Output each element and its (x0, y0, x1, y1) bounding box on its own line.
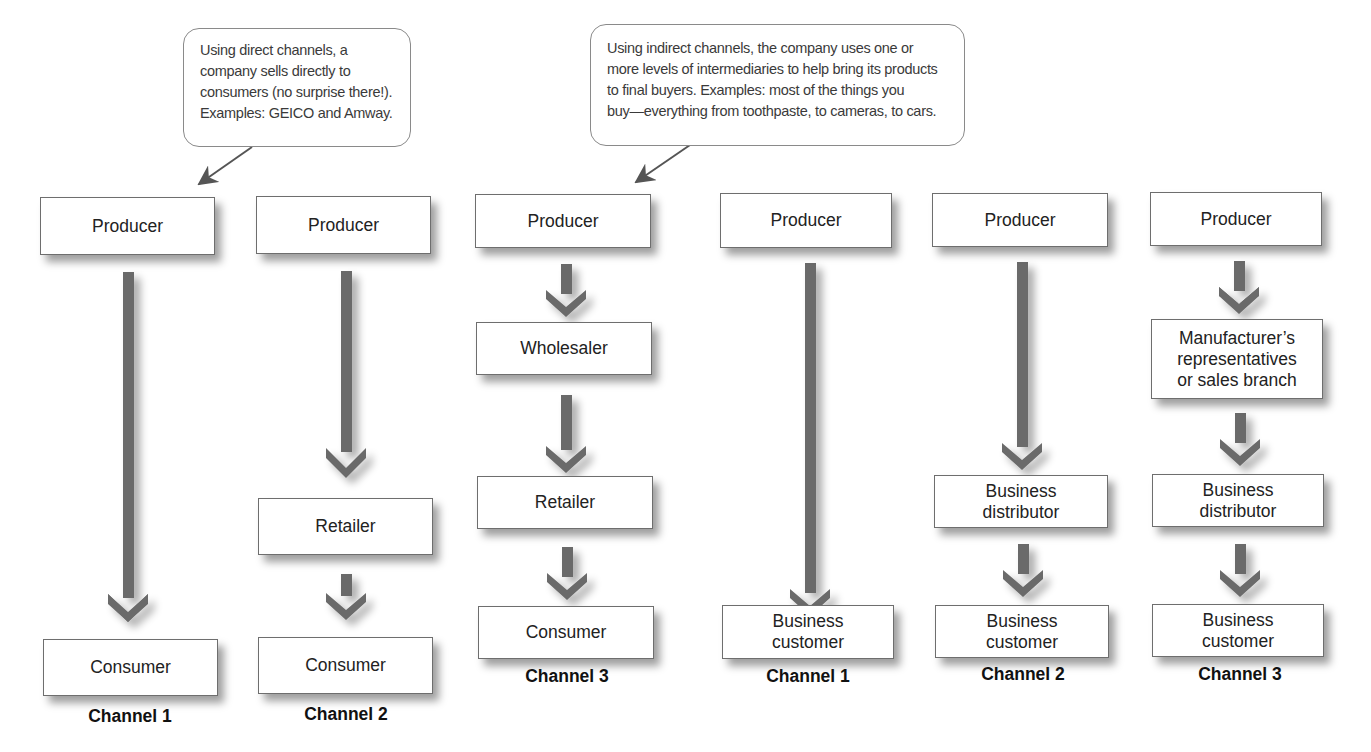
node-consumer: Consumer (478, 606, 654, 659)
node-label: Retailer (535, 492, 595, 513)
node-business-distributor: Business distributor (1152, 474, 1324, 527)
node-label-line: Manufacturer’s (1179, 328, 1295, 349)
node-label-line: Business (1202, 610, 1273, 631)
node-label: Consumer (305, 655, 386, 676)
node-producer: Producer (40, 197, 215, 255)
node-label: Consumer (526, 622, 607, 643)
node-label-line: representatives (1177, 349, 1297, 370)
callout-text-line: Examples: GEICO and Amway. (200, 103, 410, 124)
node-label: Wholesaler (520, 338, 608, 359)
channel-label: Channel 1 (40, 706, 220, 727)
channel-label: Channel 3 (477, 666, 657, 687)
node-label-line: distributor (1200, 501, 1277, 522)
callout-text-line: more levels of intermediaries to help br… (607, 59, 964, 80)
node-label: Producer (527, 211, 598, 232)
node-label-line: Business (1202, 480, 1273, 501)
node-retailer: Retailer (477, 476, 653, 529)
callout-pointer-icon (636, 145, 690, 182)
callout-text-line: Using direct channels, a (200, 40, 410, 61)
callout-text-line: to final buyers. Examples: most of the t… (607, 80, 964, 101)
node-label: Retailer (315, 516, 375, 537)
node-label-line: Business (772, 611, 843, 632)
node-label-line: Business (985, 481, 1056, 502)
arrow-down-icon (1219, 261, 1259, 314)
arrow-down-icon (1220, 544, 1260, 597)
direct-channels-callout: Using direct channels, a company sells d… (183, 28, 411, 147)
arrow-down-icon (546, 395, 586, 473)
node-business-distributor: Business distributor (934, 475, 1108, 528)
node-business-customer: Business customer (935, 605, 1109, 658)
node-producer: Producer (475, 194, 651, 248)
callout-text-line: buy—everything from toothpaste, to camer… (607, 101, 964, 122)
arrow-down-icon (790, 263, 830, 616)
channel-label: Channel 2 (256, 704, 436, 725)
node-producer: Producer (1150, 192, 1322, 246)
arrow-down-icon (1220, 413, 1260, 466)
channel-label: Channel 3 (1150, 664, 1330, 685)
callout-pointer-icon (199, 147, 252, 184)
node-wholesaler: Wholesaler (476, 322, 652, 375)
node-label: Producer (770, 210, 841, 231)
node-label-line: or sales branch (1177, 370, 1297, 391)
indirect-channels-callout: Using indirect channels, the company use… (590, 24, 965, 146)
node-business-customer: Business customer (1152, 604, 1324, 657)
arrow-down-icon (1003, 544, 1043, 597)
node-consumer: Consumer (43, 639, 218, 696)
channel-label: Channel 2 (933, 664, 1113, 685)
channel-label: Channel 1 (718, 666, 898, 687)
arrow-down-icon (547, 547, 587, 600)
node-producer: Producer (932, 193, 1108, 247)
arrow-down-icon (326, 574, 366, 620)
node-producer: Producer (256, 196, 431, 254)
node-label-line: Business (986, 611, 1057, 632)
node-retailer: Retailer (258, 498, 433, 555)
callout-text-line: consumers (no surprise there!). (200, 82, 410, 103)
arrow-down-icon (546, 264, 586, 317)
node-label-line: distributor (983, 502, 1060, 523)
node-label: Producer (308, 215, 379, 236)
callout-text-line: company sells directly to (200, 61, 410, 82)
arrow-down-icon (326, 271, 366, 478)
node-label: Producer (1200, 209, 1271, 230)
arrow-down-icon (1002, 262, 1042, 470)
node-label-line: customer (772, 632, 844, 653)
arrow-down-icon (108, 272, 148, 622)
node-label: Consumer (90, 657, 171, 678)
node-producer: Producer (720, 193, 892, 248)
node-label: Producer (984, 210, 1055, 231)
node-business-customer: Business customer (722, 605, 894, 659)
callout-text-line: Using indirect channels, the company use… (607, 38, 964, 59)
node-label-line: customer (986, 632, 1058, 653)
node-consumer: Consumer (258, 637, 433, 694)
node-label-line: customer (1202, 631, 1274, 652)
node-manufacturers-representatives: Manufacturer’s representatives or sales … (1151, 319, 1323, 399)
node-label: Producer (92, 216, 163, 237)
